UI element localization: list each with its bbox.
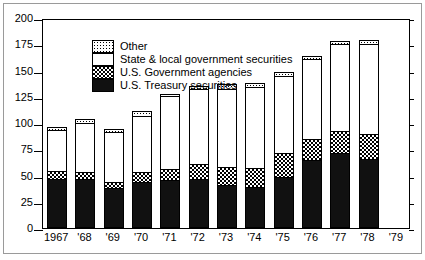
bar-77[interactable] — [330, 18, 350, 228]
bar-segment-75-u-s-treasury-securities — [274, 177, 294, 228]
x-axis-label-79: '79 — [374, 232, 418, 243]
bar-segment-72-u-s-government-agencies — [189, 164, 209, 179]
bar-segment-68-state-local-government-securities — [75, 123, 95, 172]
y-tick-right-75 — [409, 151, 414, 152]
bar-segment-72-state-local-government-securities — [189, 89, 209, 164]
bar-segment-74-u-s-government-agencies — [245, 168, 265, 187]
legend-swatch-icon-dotted — [92, 40, 114, 53]
legend-swatch-icon-white — [92, 53, 114, 66]
bar-segment-75-u-s-government-agencies — [274, 153, 294, 176]
legend-label: State & local government securities — [120, 53, 292, 66]
y-tick-right-200 — [409, 20, 414, 21]
bar-segment-70-state-local-government-securities — [132, 116, 152, 173]
bar-segment-72-u-s-treasury-securities — [189, 179, 209, 228]
bar-segment-78-u-s-treasury-securities — [359, 159, 379, 228]
bar-segment-69-u-s-treasury-securities — [104, 188, 124, 228]
bar-segment-68-other — [75, 119, 95, 123]
y-tick-right-25 — [409, 204, 414, 205]
bar-segment-73-u-s-government-agencies — [217, 167, 237, 185]
bar-segment-76-u-s-government-agencies — [302, 139, 322, 160]
bar-segment-71-u-s-treasury-securities — [160, 180, 180, 228]
bar-segment-77-state-local-government-securities — [330, 44, 350, 131]
bar-1967[interactable] — [47, 18, 67, 228]
bar-segment-77-u-s-government-agencies — [330, 131, 350, 153]
y-axis-label-25: 25 — [0, 197, 33, 208]
y-tick-25 — [34, 204, 43, 205]
bar-segment-1967-state-local-government-securities — [47, 130, 67, 171]
y-tick-right-0 — [409, 230, 414, 231]
y-tick-right-100 — [409, 125, 414, 126]
x-axis-labels: 1967'68'69'70'71'72'73'74'75'76'77'78'79 — [42, 232, 410, 248]
y-tick-right-150 — [409, 73, 414, 74]
plot-area: OtherState & local government securities… — [42, 19, 410, 229]
bar-segment-70-u-s-government-agencies — [132, 172, 152, 181]
y-tick-right-125 — [409, 99, 414, 100]
bar-segment-71-other — [160, 94, 180, 96]
bar-segment-69-u-s-government-agencies — [104, 182, 124, 188]
bar-segment-68-u-s-treasury-securities — [75, 179, 95, 228]
legend-item-u-s-government-agencies[interactable]: U.S. Government agencies — [92, 66, 322, 79]
y-tick-100 — [34, 125, 43, 126]
bar-segment-78-u-s-government-agencies — [359, 134, 379, 159]
bar-segment-76-u-s-treasury-securities — [302, 160, 322, 228]
y-axis-label-200: 200 — [0, 13, 33, 24]
y-axis-label-150: 150 — [0, 66, 33, 77]
legend-item-u-s-treasury-securities[interactable]: U.S. Treasury securities — [92, 79, 322, 92]
y-tick-150 — [34, 73, 43, 74]
y-tick-right-50 — [409, 178, 414, 179]
bar-segment-69-state-local-government-securities — [104, 132, 124, 181]
bar-segment-73-state-local-government-securities — [217, 89, 237, 167]
bar-segment-68-u-s-government-agencies — [75, 172, 95, 178]
y-axis-label-175: 175 — [0, 39, 33, 50]
y-tick-200 — [34, 20, 43, 21]
legend-label: U.S. Treasury securities — [120, 79, 237, 92]
y-axis-label-100: 100 — [0, 118, 33, 129]
bar-segment-74-state-local-government-securities — [245, 87, 265, 168]
chart-legend: OtherState & local government securities… — [92, 40, 322, 92]
y-tick-175 — [34, 46, 43, 47]
bar-segment-1967-other — [47, 127, 67, 130]
bar-segment-77-u-s-treasury-securities — [330, 153, 350, 228]
bar-segment-1967-u-s-government-agencies — [47, 171, 67, 178]
y-axis-label-50: 50 — [0, 171, 33, 182]
y-tick-75 — [34, 151, 43, 152]
bar-segment-70-u-s-treasury-securities — [132, 182, 152, 228]
legend-swatch-icon-solid-black — [92, 79, 114, 92]
y-axis-label-75: 75 — [0, 144, 33, 155]
y-tick-50 — [34, 178, 43, 179]
bar-segment-77-other — [330, 41, 350, 44]
y-tick-0 — [34, 230, 43, 231]
bar-segment-78-state-local-government-securities — [359, 44, 379, 133]
bar-segment-71-u-s-government-agencies — [160, 169, 180, 180]
bar-segment-78-other — [359, 40, 379, 44]
chart-figure: 0255075100125150175200 OtherState & loca… — [0, 0, 425, 260]
bar-segment-73-u-s-treasury-securities — [217, 185, 237, 228]
bar-segment-1967-u-s-treasury-securities — [47, 179, 67, 228]
y-axis-label-0: 0 — [0, 223, 33, 234]
y-tick-right-175 — [409, 46, 414, 47]
bar-segment-70-other — [132, 111, 152, 115]
y-axis-label-125: 125 — [0, 92, 33, 103]
legend-item-state-local-government-securities[interactable]: State & local government securities — [92, 53, 322, 66]
y-tick-125 — [34, 99, 43, 100]
bar-78[interactable] — [359, 18, 379, 228]
legend-swatch-icon-checkerboard — [92, 66, 114, 79]
legend-item-other[interactable]: Other — [92, 40, 322, 53]
bar-segment-69-other — [104, 129, 124, 132]
legend-label: U.S. Government agencies — [120, 66, 252, 79]
legend-label: Other — [120, 40, 148, 53]
bar-segment-74-u-s-treasury-securities — [245, 187, 265, 228]
bar-segment-71-state-local-government-securities — [160, 96, 180, 170]
